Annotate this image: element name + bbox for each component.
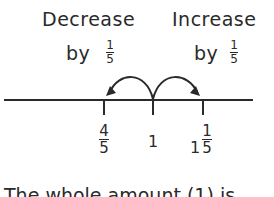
- tick-label-numerator: 1: [202, 124, 212, 138]
- tick-label-one-and-one-fifth-fraction: 1 5: [202, 124, 212, 155]
- bottom-caption: The whole amount (1) is: [4, 184, 235, 197]
- tick-label-denominator: 5: [202, 141, 212, 155]
- decrease-arrowhead-icon: [106, 86, 116, 96]
- number-line: [0, 0, 274, 197]
- increase-arrowhead-icon: [190, 86, 200, 96]
- tick-label-one: 1: [148, 132, 158, 151]
- tick-label-numerator: 4: [99, 124, 109, 138]
- decrease-arrow: [110, 77, 153, 99]
- tick-label-four-fifths: 4 5: [99, 124, 109, 155]
- increase-arrow: [153, 77, 197, 99]
- tick-label-one-and-one-fifth-whole: 1: [190, 138, 200, 157]
- tick-label-denominator: 5: [99, 141, 109, 155]
